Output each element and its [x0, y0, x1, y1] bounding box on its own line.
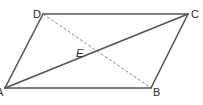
parallelogram-diagram: D C E A B [0, 0, 203, 105]
label-c: C [191, 8, 199, 20]
side-bc [151, 14, 188, 88]
label-a: A [0, 86, 4, 98]
diagonal-db [43, 14, 151, 88]
label-d: D [33, 8, 41, 20]
label-e: E [76, 47, 84, 59]
label-b: B [153, 86, 160, 98]
side-da [5, 14, 43, 88]
